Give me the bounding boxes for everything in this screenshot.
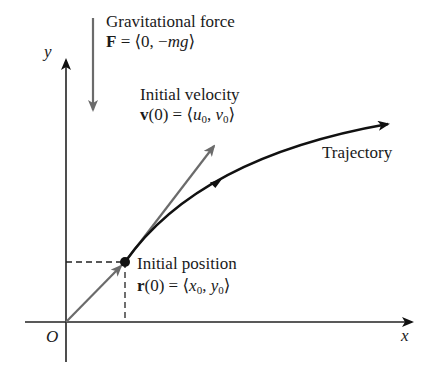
position-sep: , (202, 276, 211, 295)
velocity-title: Initial velocity (140, 85, 240, 105)
force-symbol: F (106, 32, 116, 51)
gravity-eq-var: mg (168, 32, 189, 51)
velocity-u: u (193, 105, 202, 124)
velocity-sep: , (207, 105, 216, 124)
gravity-eq-body: = ⟨0, − (116, 32, 167, 51)
trajectory-label: Trajectory (322, 143, 392, 163)
gravity-eq-close: ⟩ (188, 32, 195, 51)
position-title: Initial position (137, 254, 237, 274)
position-eq-close: ⟩ (224, 276, 231, 295)
y-axis-label: y (44, 42, 52, 62)
x-axis-label: x (401, 326, 409, 346)
diagram-canvas (0, 0, 441, 379)
velocity-equation: v(0) = ⟨u0, v0⟩ (140, 105, 235, 125)
position-x: x (189, 276, 197, 295)
velocity-eq-close: ⟩ (229, 105, 236, 124)
velocity-v: v (216, 105, 224, 124)
position-symbol: r (137, 276, 145, 295)
origin-label: O (46, 327, 58, 347)
position-equation: r(0) = ⟨x0, y0⟩ (137, 276, 230, 296)
velocity-symbol: v (140, 105, 149, 124)
gravity-title: Gravitational force (106, 12, 235, 32)
gravity-equation: F = ⟨0, −mg⟩ (106, 32, 195, 52)
position-vector-arrow (66, 266, 121, 322)
initial-position-point (120, 257, 130, 267)
velocity-eq-mid: (0) = ⟨ (149, 105, 194, 124)
position-eq-mid: (0) = ⟨ (145, 276, 190, 295)
